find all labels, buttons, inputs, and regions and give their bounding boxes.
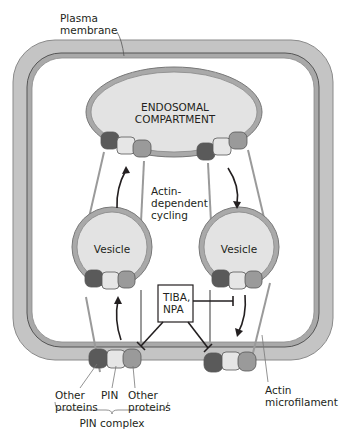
label-other-proteins-right: Other proteins [128,389,171,413]
label-plasma-membrane: Plasma membrane [60,12,117,36]
pin-complex-vesicle-left [85,270,135,289]
label-pin: PIN [101,389,118,401]
label-actin-dependent-cycling: Actin- dependent cycling [151,185,208,221]
label-endosomal-compartment: ENDOSOMAL COMPARTMENT [130,101,220,125]
label-line: NPA [163,303,190,315]
label-line: proteins [128,401,171,413]
label-line: TIBA, [163,291,190,303]
label-line: COMPARTMENT [130,113,220,125]
label-actin-microfilament: Actin microfilament [265,384,338,408]
diagram-canvas [0,0,347,446]
label-line: Other [128,389,171,401]
label-line: membrane [60,24,117,36]
label-line: Actin [265,384,338,396]
label-pin-complex: PIN complex [72,417,152,429]
pin-complex-membrane-right [204,352,256,372]
label-vesicle-right: Vesicle [214,243,264,255]
label-line: dependent [151,197,208,209]
label-line: cycling [151,209,208,221]
pin-complex-vesicle-right [212,270,262,289]
pin-complex-membrane-left [89,349,141,368]
label-line: Other [55,389,98,401]
label-line: ENDOSOMAL [130,101,220,113]
label-line: proteins [55,401,98,413]
label-line: Actin- [151,185,208,197]
label-line: microfilament [265,396,338,408]
label-vesicle-left: Vesicle [87,243,137,255]
label-other-proteins-left: Other proteins [55,389,98,413]
label-inhibitors: TIBA, NPA [163,291,190,315]
label-line: Plasma [60,12,117,24]
